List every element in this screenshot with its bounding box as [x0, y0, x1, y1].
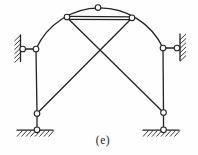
hatch-stroke — [40, 131, 46, 137]
hatch-stroke — [26, 131, 32, 137]
left-ground-pin — [34, 127, 40, 133]
top-bar-upper-edge — [67, 16, 132, 17]
diagonal-left-to-right — [67, 18, 164, 113]
right-wall-pin — [174, 45, 180, 51]
left-column — [36, 49, 37, 114]
diagonal-right-to-left — [37, 18, 132, 114]
hatch-stroke — [170, 131, 176, 137]
figure-label: (e) — [96, 134, 110, 146]
right-shoulder-pin — [160, 45, 166, 51]
arch-member — [36, 8, 163, 49]
left-wall-pin — [20, 46, 26, 52]
left-knee-pin — [34, 111, 40, 117]
hatch-stroke — [175, 131, 181, 137]
right-knee-pin — [161, 110, 167, 116]
hatch-stroke — [152, 131, 158, 137]
right-column — [163, 48, 164, 113]
mechanism-figure: (e) — [0, 0, 198, 155]
arch-left-pin — [64, 14, 70, 20]
left-shoulder-pin — [33, 46, 39, 52]
hatch-stroke — [44, 131, 50, 137]
mechanism-svg — [0, 0, 198, 155]
arch-apex-pin — [95, 5, 101, 11]
arch-right-pin — [129, 15, 135, 21]
right-ground-pin — [161, 127, 167, 133]
hatch-stroke — [148, 131, 154, 137]
hatch-stroke — [22, 131, 28, 137]
hatch-stroke — [143, 131, 149, 137]
hatch-stroke — [17, 131, 23, 137]
hatch-stroke — [49, 131, 55, 137]
